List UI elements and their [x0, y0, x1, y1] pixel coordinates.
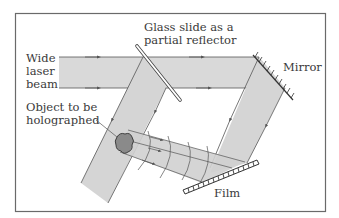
label-wide-laser-beam: Wide laser beam	[26, 52, 58, 91]
label-line: beam	[26, 78, 58, 91]
label-film: Film	[214, 187, 240, 200]
label-glass-slide: Glass slide as a partial reflector	[144, 21, 236, 47]
label-object: Object to be holographed	[26, 101, 100, 127]
label-mirror: Mirror	[283, 61, 322, 74]
label-line: holographed	[26, 114, 100, 127]
label-line: partial reflector	[144, 34, 236, 47]
hologram-diagram: Wide laser beam Glass slide as a partial…	[0, 0, 339, 218]
